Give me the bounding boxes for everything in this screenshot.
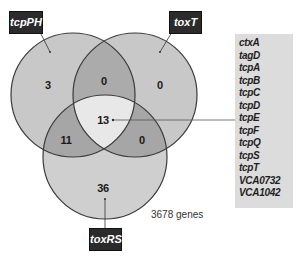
- total-genes-label: 3678 genes: [151, 209, 203, 220]
- count-toxT-only: 0: [157, 79, 163, 91]
- gene-item: tagD: [239, 50, 293, 63]
- count-tcpPH-only: 3: [45, 79, 51, 91]
- gene-item: tcpQ: [239, 137, 293, 150]
- gene-item: tcpB: [239, 75, 293, 88]
- gene-list-box: ctxA tagD tcpA tcpB tcpC tcpD tcpE tcpF …: [235, 34, 293, 208]
- label-tcpPH: tcpPH: [9, 11, 43, 34]
- gene-item: tcpT: [239, 162, 293, 175]
- gene-item: tcpC: [239, 87, 293, 100]
- count-tcpPH-toxRS: 11: [60, 134, 71, 146]
- count-toxT-toxRS: 0: [139, 134, 145, 146]
- gene-item: tcpS: [239, 150, 293, 163]
- count-all-three: 13: [97, 114, 109, 126]
- gene-item: tcpD: [239, 100, 293, 113]
- gene-item: VCA0732: [239, 175, 293, 188]
- gene-item: tcpF: [239, 125, 293, 138]
- count-tcpPH-toxT: 0: [101, 75, 107, 87]
- gene-item: VCA1042: [239, 187, 293, 200]
- gene-item: tcpE: [239, 112, 293, 125]
- gene-item: ctxA: [239, 37, 293, 50]
- count-toxRS-only: 36: [97, 182, 109, 194]
- label-toxRS: toxRS: [89, 228, 122, 251]
- gene-list: ctxA tagD tcpA tcpB tcpC tcpD tcpE tcpF …: [239, 37, 293, 200]
- label-toxT: toxT: [169, 11, 202, 34]
- gene-item: tcpA: [239, 62, 293, 75]
